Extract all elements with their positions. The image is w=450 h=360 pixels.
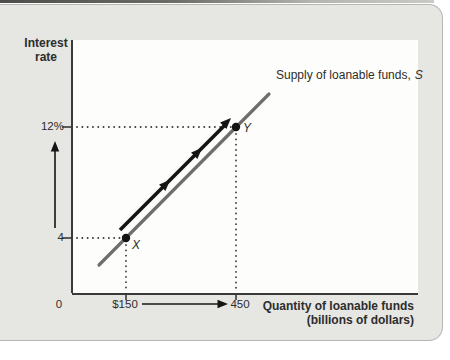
x-tick-150-label: $150 [95, 298, 155, 311]
y-axis-title-line2: rate [22, 50, 70, 64]
supply-curve-label-symbol: S [415, 68, 423, 82]
x-axis-title: Quantity of loanable funds (billions of … [263, 299, 414, 327]
figure-page: Interest rate 12% 4 0 $150 450 Quantity … [0, 0, 450, 360]
origin-label: 0 [44, 298, 74, 311]
y-tick-4-label: 4 [24, 231, 64, 244]
rate-up-arrowhead [51, 141, 59, 152]
point-x-dot [122, 234, 130, 242]
x-tick-450-label: 450 [210, 298, 270, 311]
y-axis-title: Interest rate [22, 36, 70, 64]
point-x-label: X [132, 239, 140, 252]
movement-arrow-shaft [120, 124, 226, 230]
y-axis-title-line1: Interest [22, 36, 70, 50]
supply-curve-label: Supply of loanable funds,S [276, 69, 423, 82]
x-axis-title-line2: (billions of dollars) [263, 313, 414, 327]
point-y-dot [232, 123, 240, 131]
point-y-label: Y [243, 122, 251, 135]
x-axis-title-line1: Quantity of loanable funds [263, 299, 414, 313]
y-tick-12-label: 12% [24, 120, 64, 133]
supply-curve-label-text: Supply of loanable funds, [276, 68, 411, 82]
